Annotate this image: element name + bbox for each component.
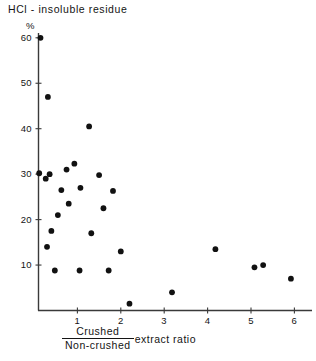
x-axis-title-suffix: extract ratio	[135, 333, 196, 345]
data-point	[45, 94, 51, 100]
data-point	[101, 205, 107, 211]
data-point	[66, 201, 72, 207]
data-point	[110, 188, 116, 194]
data-point	[48, 228, 54, 234]
data-point	[118, 249, 124, 255]
data-point	[78, 185, 84, 191]
x-axis-title-fraction: Crushed Non-crushed	[62, 326, 134, 352]
x-tick-label: 4	[196, 315, 220, 326]
x-axis-title: Crushed Non-crushed extract ratio	[62, 326, 196, 352]
x-tick-label: 3	[152, 315, 176, 326]
data-point	[252, 264, 258, 270]
data-point	[55, 212, 61, 218]
data-point	[106, 268, 112, 274]
y-tick-label: 60	[8, 32, 32, 43]
plot-canvas	[0, 0, 316, 361]
data-point	[64, 167, 70, 173]
y-tick-label: 20	[8, 214, 32, 225]
data-points-group	[36, 35, 294, 307]
y-tick-label: 40	[8, 123, 32, 134]
data-point	[86, 124, 92, 130]
x-tick-label: 5	[239, 315, 263, 326]
data-point	[38, 35, 44, 41]
x-axis-title-denominator: Non-crushed	[62, 339, 134, 351]
data-point	[213, 246, 219, 252]
data-point	[127, 301, 133, 307]
data-point	[52, 268, 58, 274]
data-point	[36, 170, 42, 176]
data-point	[288, 276, 294, 282]
data-point	[44, 244, 50, 250]
y-tick-label: 10	[8, 259, 32, 270]
data-point	[58, 187, 64, 193]
data-point	[43, 176, 49, 182]
data-point	[96, 172, 102, 178]
x-axis-title-numerator: Crushed	[73, 326, 122, 338]
data-point	[260, 262, 266, 268]
y-tick-label: 50	[8, 77, 32, 88]
data-point	[47, 171, 53, 177]
scatter-plot-figure: HCl - insoluble residue % 102030405060 1…	[0, 0, 316, 361]
data-point	[169, 289, 175, 295]
y-tick-label: 30	[8, 168, 32, 179]
data-point	[77, 268, 83, 274]
data-point	[71, 161, 77, 167]
data-point	[88, 230, 94, 236]
x-tick-label: 6	[282, 315, 306, 326]
